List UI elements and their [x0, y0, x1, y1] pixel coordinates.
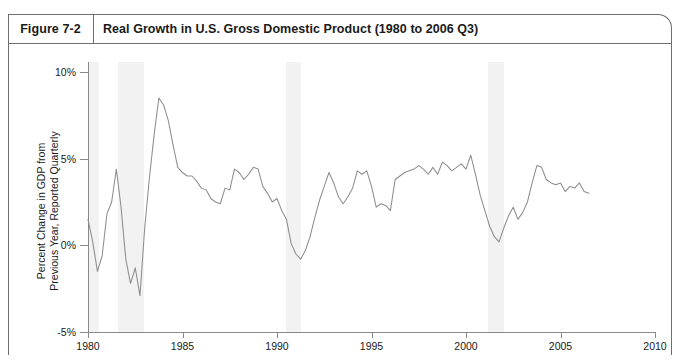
gdp-growth-polyline — [88, 98, 589, 296]
chart-plot-area: -5%0%5%10% 1980198519901995200020052010 … — [0, 0, 682, 363]
gdp-growth-line-series — [0, 0, 682, 363]
